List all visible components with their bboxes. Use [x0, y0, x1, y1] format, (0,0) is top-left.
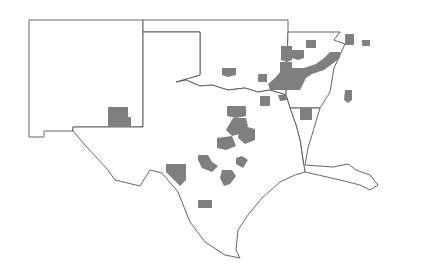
- highlighted-county: [300, 108, 312, 120]
- highlighted-county: [345, 34, 354, 45]
- states-layer: [29, 20, 378, 258]
- highlighted-county: [344, 90, 352, 103]
- highlighted-county: [292, 50, 304, 60]
- highlighted-county: [258, 74, 267, 82]
- highlighted-county: [198, 200, 212, 208]
- highlighted-county: [281, 46, 292, 62]
- choropleth-map: [0, 0, 424, 278]
- highlighted-county: [260, 96, 270, 106]
- highlighted-county: [108, 107, 131, 127]
- highlighted-county: [362, 40, 370, 46]
- state-louisiana: [290, 108, 378, 190]
- highlighted-county: [306, 40, 316, 48]
- highlighted-county: [227, 106, 246, 118]
